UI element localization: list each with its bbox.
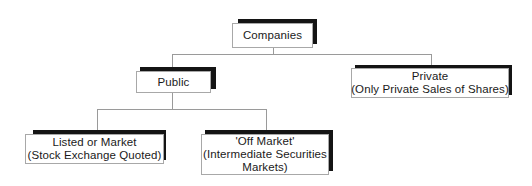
connector-public-down	[172, 92, 173, 109]
node-companies: Companies	[232, 23, 313, 48]
node-label-line1: Listed or Market	[52, 136, 136, 149]
node-box: Companies	[232, 23, 313, 48]
org-diagram: Companies Public Private (Only Private S…	[0, 0, 532, 186]
node-box: Private (Only Private Sales of Shares)	[351, 68, 509, 98]
connector-to-listed	[97, 109, 98, 131]
node-label-line3: Markets)	[242, 161, 288, 174]
node-label-line1: 'Off Market'	[235, 135, 294, 148]
connector-level1-horizontal	[172, 54, 432, 55]
connector-to-off-market	[266, 109, 267, 131]
node-listed-market: Listed or Market (Stock Exchange Quoted)	[25, 134, 164, 164]
node-label: Public	[158, 76, 190, 89]
node-box: Listed or Market (Stock Exchange Quoted)	[25, 134, 164, 164]
node-off-market: 'Off Market' (Intermediate Securities Ma…	[201, 134, 329, 175]
node-label: Companies	[243, 29, 302, 42]
node-label-line2: (Stock Exchange Quoted)	[28, 149, 162, 162]
node-box: 'Off Market' (Intermediate Securities Ma…	[201, 134, 329, 175]
connector-to-public	[172, 54, 173, 68]
node-label-line2: (Intermediate Securities	[203, 148, 327, 161]
connector-level2-horizontal	[97, 109, 267, 110]
node-label-line1: Private	[412, 70, 449, 83]
node-box: Public	[136, 71, 211, 93]
node-public: Public	[136, 71, 211, 93]
node-label-line2: (Only Private Sales of Shares)	[351, 83, 509, 96]
node-private: Private (Only Private Sales of Shares)	[351, 68, 509, 98]
